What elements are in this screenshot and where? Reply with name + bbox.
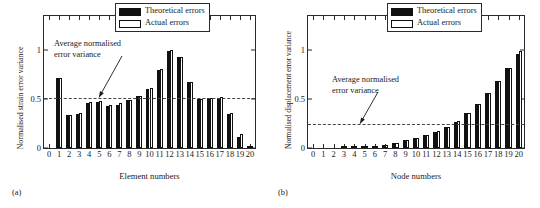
- x-tick-label: 9: [137, 150, 141, 159]
- x-tick-label: 8: [393, 150, 397, 159]
- plot-area: 00.5101234567891011121314151617181920Ave…: [307, 15, 525, 149]
- legend-item: Theoretical errors: [391, 6, 477, 17]
- y-tick-label: 1: [301, 46, 305, 55]
- x-tick-label: 12: [165, 150, 174, 159]
- x-tick-label: 3: [342, 150, 346, 159]
- x-tick-label: 17: [216, 150, 225, 159]
- y-tick-label: 0.5: [30, 95, 41, 104]
- x-tick-label: 3: [77, 150, 81, 159]
- panel-a: Normalised strain error variance00.51012…: [0, 0, 270, 208]
- y-axis-title: Normalised displacement error variance: [282, 6, 296, 174]
- figure-two-panel-bar-charts: Normalised strain error variance00.51012…: [0, 0, 540, 208]
- plot-area: 00.5101234567891011121314151617181920Ave…: [43, 15, 256, 149]
- x-tick-label: 6: [107, 150, 111, 159]
- x-tick-label: 11: [155, 150, 163, 159]
- x-tick-label: 13: [175, 150, 184, 159]
- x-axis-title: Element numbers: [43, 171, 256, 181]
- annotation-arrow-icon: [44, 16, 257, 150]
- x-tick-label: 16: [206, 150, 215, 159]
- legend-item: Theoretical errors: [119, 6, 205, 17]
- x-tick-label: 2: [67, 150, 71, 159]
- legend: Theoretical errorsActual errors: [387, 3, 482, 32]
- x-tick-label: 4: [352, 150, 356, 159]
- x-tick-label: 19: [504, 150, 513, 159]
- x-tick-label: 20: [246, 150, 255, 159]
- x-axis-title: Node numbers: [307, 171, 525, 181]
- legend: Theoretical errorsActual errors: [115, 3, 210, 32]
- x-tick-label: 20: [515, 150, 524, 159]
- x-tick-label: 16: [473, 150, 482, 159]
- annotation-arrow-icon: [308, 16, 526, 150]
- x-tick-label: 5: [362, 150, 366, 159]
- legend-swatch-theoretical: [391, 8, 413, 16]
- y-tick-label: 0.5: [294, 95, 305, 104]
- x-tick-label: 9: [404, 150, 408, 159]
- plot-inner: 00.5101234567891011121314151617181920Ave…: [308, 16, 524, 148]
- y-axis-title: Normalised strain error variance: [14, 18, 28, 178]
- x-tick-label: 19: [236, 150, 245, 159]
- legend-swatch-actual: [119, 20, 141, 28]
- legend-swatch-theoretical: [119, 8, 141, 16]
- x-tick-label: 1: [321, 150, 325, 159]
- x-tick-label: 10: [145, 150, 154, 159]
- x-tick-label: 8: [127, 150, 131, 159]
- panel-caption: (b): [278, 188, 288, 197]
- x-tick-label: 7: [383, 150, 387, 159]
- x-tick-label: 10: [412, 150, 421, 159]
- legend-label: Actual errors: [145, 19, 189, 27]
- x-tick-label: 14: [453, 150, 462, 159]
- y-tick-label: 1: [37, 46, 41, 55]
- x-tick-label: 2: [332, 150, 336, 159]
- x-tick-label: 15: [463, 150, 472, 159]
- legend-item: Actual errors: [119, 18, 205, 29]
- legend-label: Actual errors: [417, 19, 461, 27]
- x-tick-label: 7: [117, 150, 121, 159]
- legend-item: Actual errors: [391, 18, 477, 29]
- legend-swatch-actual: [391, 20, 413, 28]
- x-tick-label: 1: [57, 150, 61, 159]
- legend-label: Theoretical errors: [417, 7, 477, 15]
- x-tick-label: 18: [494, 150, 503, 159]
- x-tick-label: 15: [195, 150, 204, 159]
- x-tick-label: 4: [87, 150, 91, 159]
- y-tick-label: 0: [37, 144, 41, 153]
- panel-caption: (a): [12, 188, 21, 197]
- panel-b: Normalised displacement error variance00…: [270, 0, 540, 208]
- x-tick-label: 0: [311, 150, 315, 159]
- legend-label: Theoretical errors: [145, 7, 205, 15]
- x-tick-label: 14: [185, 150, 194, 159]
- x-tick-label: 12: [432, 150, 441, 159]
- x-tick-label: 0: [47, 150, 51, 159]
- x-tick-label: 5: [97, 150, 101, 159]
- x-tick-label: 13: [443, 150, 452, 159]
- x-tick-label: 17: [484, 150, 493, 159]
- plot-inner: 00.5101234567891011121314151617181920Ave…: [44, 16, 255, 148]
- x-tick-label: 18: [226, 150, 235, 159]
- x-tick-label: 6: [373, 150, 377, 159]
- y-tick-label: 0: [301, 144, 305, 153]
- x-tick-label: 11: [422, 150, 430, 159]
